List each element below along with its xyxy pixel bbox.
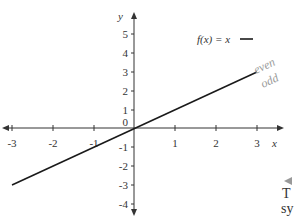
y-tick-label: -2: [119, 160, 128, 172]
x-tick-label: 1: [172, 137, 178, 149]
y-tick-label: -1: [119, 141, 128, 153]
y-tick-label: 4: [123, 47, 129, 59]
x-axis-left-arrow-icon: [2, 125, 9, 131]
y-tick-label: -4: [119, 198, 129, 210]
x-tick-label: -2: [48, 137, 57, 149]
side-text: sy: [281, 201, 293, 217]
y-tick-label: 1: [123, 104, 129, 116]
x-tick-label: 2: [213, 137, 219, 149]
x-axis-right-arrow-icon: [277, 125, 284, 131]
chart: -3 -2 -1 1 2 3 x 5 4 3 2 1 0 -1 -2 -3 -4…: [0, 0, 295, 217]
x-axis-label: x: [271, 137, 277, 149]
y-tick-label: 3: [123, 66, 129, 78]
y-tick-label: 5: [123, 28, 129, 40]
side-marker-icon: [284, 177, 292, 185]
y-axis-down-arrow-icon: [131, 209, 137, 216]
y-tick-label: 2: [123, 85, 129, 97]
side-text: T: [282, 186, 291, 202]
x-tick-label: 3: [254, 137, 260, 149]
y-axis-up-arrow-icon: [131, 12, 137, 19]
x-tick-label: -3: [7, 137, 17, 149]
y-tick-label: -3: [119, 179, 129, 191]
legend-label: f(x) = x: [197, 33, 230, 46]
y-axis-label: y: [117, 10, 123, 22]
origin-label: 0: [123, 116, 129, 128]
